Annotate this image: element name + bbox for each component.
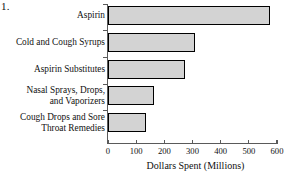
x-axis-tick [192, 140, 193, 144]
category-label-line: Nasal Sprays, Drops, [0, 85, 105, 96]
category-label-cold-and-cough-syrups: Cold and Cough Syrups [0, 37, 105, 48]
y-axis-tick [103, 4, 107, 5]
y-axis-tick [103, 110, 107, 111]
category-label-cough-drops-and-sore-throat-remedies: Cough Drops and Sore Throat Remedies [0, 112, 105, 133]
x-axis-tick-label: 0 [95, 147, 121, 156]
x-axis-title: Dollars Spent (Millions) [108, 160, 283, 171]
x-axis-tick [248, 140, 249, 144]
x-axis-tick-label: 300 [180, 147, 206, 156]
category-label-line: and Vaporizers [0, 96, 105, 107]
x-axis-tick-label: 600 [264, 147, 290, 156]
bar-aspirin [108, 6, 270, 25]
y-axis-tick [103, 57, 107, 58]
category-label-line: Cough Drops and Sore [0, 112, 105, 123]
category-label-line: Aspirin [0, 10, 105, 21]
x-axis-tick-label: 400 [208, 147, 234, 156]
x-axis-tick-label: 500 [236, 147, 262, 156]
category-label-line: Aspirin Substitutes [0, 64, 105, 75]
x-axis-tick-label: 200 [151, 147, 177, 156]
bar-chart-figure: 1. Aspirin Cold and Cough Syrups Aspirin… [0, 0, 290, 174]
bar-nasal-sprays-drops-and-vaporizers [108, 86, 154, 105]
y-axis-line [107, 4, 108, 144]
x-axis-tick-label: 100 [123, 147, 149, 156]
y-axis-tick [103, 30, 107, 31]
x-axis-tick [107, 140, 108, 144]
bar-cold-and-cough-syrups [108, 33, 195, 52]
x-axis-tick [276, 140, 277, 144]
category-label-line: Throat Remedies [0, 123, 105, 134]
x-axis-tick [220, 140, 221, 144]
x-axis-tick [136, 140, 137, 144]
category-label-line: Cold and Cough Syrups [0, 37, 105, 48]
x-axis-tick [164, 140, 165, 144]
category-label-aspirin: Aspirin [0, 10, 105, 21]
bar-aspirin-substitutes [108, 60, 185, 79]
y-axis-tick [103, 84, 107, 85]
bar-cough-drops-and-sore-throat-remedies [108, 113, 146, 132]
category-label-aspirin-substitutes: Aspirin Substitutes [0, 64, 105, 75]
category-label-nasal-sprays-drops-and-vaporizers: Nasal Sprays, Drops, and Vaporizers [0, 85, 105, 106]
